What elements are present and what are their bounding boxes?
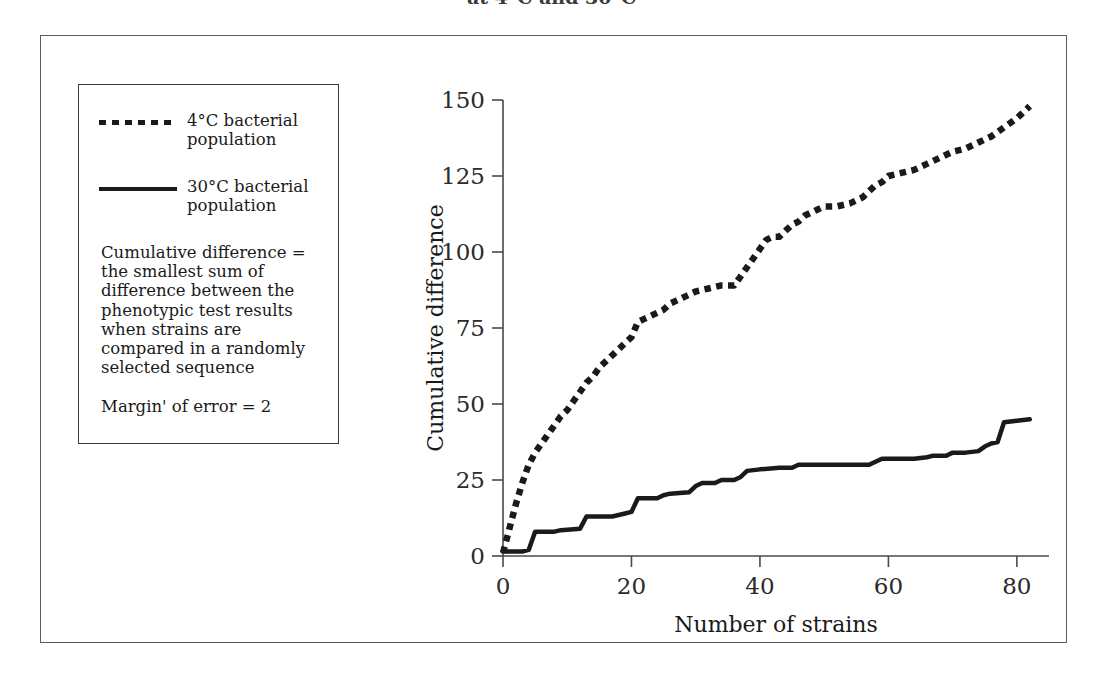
x-axis-tick-label: 20: [617, 573, 646, 599]
y-axis-tick-label: 125: [441, 163, 485, 189]
solid-line-swatch-icon: [95, 177, 181, 199]
figure-caption: at 4°C and 30°C: [0, 0, 1103, 8]
x-axis-tick-label: 60: [874, 573, 903, 599]
dotted-line-swatch-icon: [95, 111, 181, 133]
series-line-1: [503, 106, 1030, 553]
x-axis-tick-label: 80: [1002, 573, 1031, 599]
x-axis-label: Number of strains: [674, 612, 878, 636]
y-axis-tick-label: 150: [441, 87, 485, 113]
legend-label-4c: 4°C bacterialpopulation: [181, 111, 298, 149]
legend-box: 4°C bacterialpopulation 30°C bacterialpo…: [78, 84, 339, 444]
x-axis-tick-label: 0: [496, 573, 511, 599]
y-axis-tick-label: 75: [456, 315, 485, 341]
figure-frame: 4°C bacterialpopulation 30°C bacterialpo…: [40, 35, 1067, 643]
figure-caption-clip: at 4°C and 30°C: [0, 0, 1103, 12]
legend-entry-4c: 4°C bacterialpopulation: [95, 111, 327, 149]
legend-label-30c: 30°C bacterialpopulation: [181, 177, 308, 215]
legend-margin-of-error: Margin' of error = 2: [101, 397, 329, 416]
y-axis-label: Cumulative difference: [423, 204, 448, 451]
legend-entry-30c: 30°C bacterialpopulation: [95, 177, 327, 215]
x-axis-tick-label: 40: [745, 573, 774, 599]
line-chart: 0255075100125150020406080Number of strai…: [421, 56, 1061, 636]
legend-definition-note: Cumulative difference = the smallest sum…: [101, 243, 329, 377]
series-line-2: [503, 419, 1030, 551]
plot-area: 0255075100125150020406080Number of strai…: [421, 56, 1061, 636]
y-axis-tick-label: 50: [456, 391, 485, 417]
y-axis-tick-label: 0: [470, 543, 485, 569]
y-axis-tick-label: 25: [456, 467, 485, 493]
